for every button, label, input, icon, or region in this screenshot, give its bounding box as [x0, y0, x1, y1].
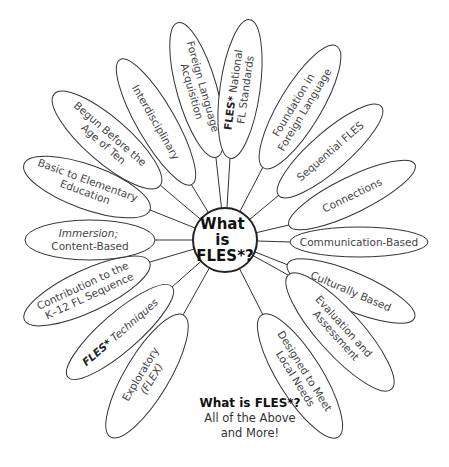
- petal-immersion-content-based: Immersion; Content-Based: [25, 220, 155, 260]
- hub: What is FLES*?: [193, 208, 257, 272]
- caption-line-2: and More!: [190, 426, 310, 441]
- caption: What is FLES*? All of the Above and More…: [190, 396, 310, 441]
- caption-line-1: All of the Above: [190, 411, 310, 426]
- petal-label: Communication-Based: [300, 236, 418, 248]
- caption-title: What is FLES*?: [190, 396, 310, 411]
- petal-label: Immersion; Content-Based: [51, 227, 128, 252]
- petal-fles-national-fl-standards: FLES* National FL Standards: [210, 17, 269, 161]
- petal-communication-based: Communication-Based: [290, 227, 428, 257]
